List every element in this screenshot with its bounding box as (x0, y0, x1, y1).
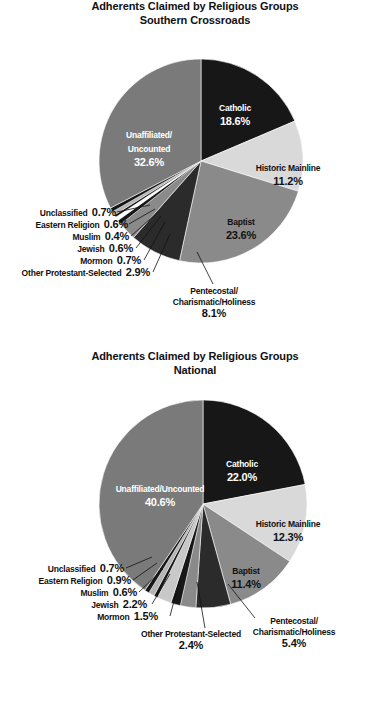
slice-name: Baptist (232, 566, 259, 576)
slice-label-other-protestant-1: Other Protestant-Selected 2.9% (4, 265, 150, 279)
chart-title-line2: National (0, 364, 390, 378)
slice-value: 18.6% (220, 115, 250, 127)
slice-label-catholic-1: Catholic 18.6% (198, 100, 272, 127)
pie-chart-southern-crossroads: Adherents Claimed by Religious Groups So… (0, 0, 390, 350)
slice-value: 11.2% (273, 175, 303, 187)
slice-value: 22.0% (227, 471, 257, 483)
slice-value: 23.6% (226, 229, 256, 241)
slice-value: 5.4% (232, 638, 356, 649)
slice-name: Unaffiliated/Uncounted (116, 484, 205, 494)
chart-title-national: Adherents Claimed by Religious Groups Na… (0, 350, 390, 377)
slice-label-catholic-2: Catholic 22.0% (205, 456, 279, 483)
slice-name: Mormon (97, 612, 129, 622)
chart-title-line1: Adherents Claimed by Religious Groups (0, 350, 390, 364)
slice-label-unaffiliated-2: Unaffiliated/Uncounted 40.6% (95, 481, 225, 508)
slice-name: Pentecostal/ (232, 616, 356, 627)
slice-label-historic-mainline-1: Historic Mainline 11.2% (240, 160, 336, 187)
slice-name-2: Uncounted (128, 144, 171, 154)
slice-label-baptist-1: Baptist 23.6% (213, 214, 269, 241)
slice-name: Other Protestant-Selected (22, 268, 122, 278)
slice-value: 12.3% (273, 531, 303, 543)
slice-name: Catholic (226, 459, 258, 469)
slice-name: Unaffiliated/ (126, 130, 172, 140)
slice-label-pentecostal-1: Pentecostal/ Charismatic/Holiness 8.1% (152, 286, 276, 319)
slice-label-pentecostal-2: Pentecostal/ Charismatic/Holiness 5.4% (232, 616, 356, 649)
slice-name: Baptist (227, 217, 254, 227)
slice-value: 40.6% (145, 496, 175, 508)
slice-value: 8.1% (152, 308, 276, 319)
slice-value: 32.6% (134, 156, 164, 168)
slice-name: Historic Mainline (256, 163, 321, 173)
slice-label-baptist-2: Baptist 11.4% (218, 563, 274, 590)
slice-value: 11.4% (231, 578, 261, 590)
slice-name: Catholic (219, 103, 251, 113)
chart-title-southern-crossroads: Adherents Claimed by Religious Groups So… (0, 0, 390, 27)
chart-title-line1: Adherents Claimed by Religious Groups (0, 0, 390, 14)
slice-value: 2.9% (126, 266, 150, 278)
slice-value: 1.5% (134, 610, 158, 622)
slice-label-unaffiliated-1: Unaffiliated/ Uncounted 32.6% (111, 127, 187, 168)
slice-label-historic-mainline-2: Historic Mainline 12.3% (238, 516, 338, 543)
chart-title-line2: Southern Crossroads (0, 14, 390, 28)
slice-label-mormon-2: Mormon 1.5% (48, 609, 158, 623)
pie-chart-national: Adherents Claimed by Religious Groups Na… (0, 350, 390, 713)
slice-name: Historic Mainline (256, 519, 321, 529)
slice-name: Pentecostal/ (152, 286, 276, 297)
